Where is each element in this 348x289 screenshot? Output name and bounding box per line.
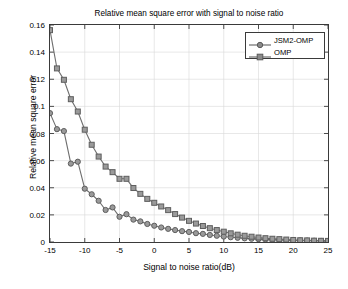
x-axis-label: Signal to noise ratio(dB) [49,262,329,272]
legend-label: JSM2-OMP [274,36,313,45]
x-tick-label: 25 [324,246,333,255]
x-tick-label: -15 [44,246,56,255]
x-axis-tick-labels: -15-10-50510152025 [49,246,329,260]
chart-legend: JSM2-OMP OMP [245,32,325,59]
x-tick-label: -10 [79,246,91,255]
legend-label: OMP [274,48,291,57]
x-tick-label: 10 [219,246,228,255]
y-axis-label: Relative mean square error [28,47,38,207]
legend-item-jsm2-omp: JSM2-OMP [249,35,313,46]
x-tick-label: 0 [152,246,156,255]
x-tick-label: -5 [116,246,123,255]
legend-marker-square-icon [249,48,271,58]
chart-figure: Relative mean square error with signal t… [0,0,348,289]
chart-title: Relative mean square error with signal t… [49,9,329,18]
legend-item-omp: OMP [249,47,291,58]
x-tick-label: 15 [254,246,263,255]
y-tick-label: 0.02 [29,210,45,219]
x-tick-label: 20 [289,246,298,255]
x-tick-label: 5 [187,246,191,255]
y-tick-label: 0.16 [29,21,45,30]
legend-marker-circle-icon [249,36,271,46]
